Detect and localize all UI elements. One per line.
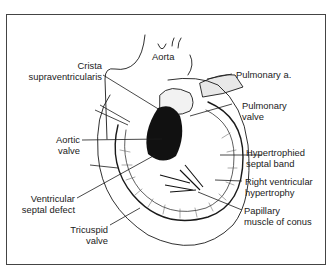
label-pulmonary-artery: Pulmonary a. <box>236 69 291 80</box>
label-crista-line1: Crista <box>50 60 102 71</box>
label-aortic-valve-line1: Aortic <box>40 134 80 145</box>
label-crista-line2: supraventricularis <box>14 71 102 82</box>
label-vsd-line1: Ventricular <box>10 193 75 204</box>
label-tricuspid-line1: Tricuspid <box>50 224 108 235</box>
aortic-branch-icon <box>158 44 166 49</box>
vsd-dark-region <box>146 106 182 160</box>
label-pulmonary-valve-line2: valve <box>242 111 264 122</box>
label-septal-band-line2: septal band <box>246 158 294 169</box>
label-papillary-line2: muscle of conus <box>244 216 312 227</box>
label-septal-band-line1: Hypertrophied <box>246 147 305 158</box>
label-rvh-line1: Right ventricular <box>245 176 313 187</box>
label-pulmonary-valve-line1: Pulmonary <box>242 100 287 111</box>
label-vsd-line2: septal defect <box>10 204 75 215</box>
label-aortic-valve-line2: valve <box>40 145 80 156</box>
label-tricuspid-line2: valve <box>50 235 108 246</box>
label-aorta: Aorta <box>152 51 174 62</box>
label-rvh-line2: hypertrophy <box>245 187 295 198</box>
label-papillary-line1: Papillary <box>244 205 280 216</box>
